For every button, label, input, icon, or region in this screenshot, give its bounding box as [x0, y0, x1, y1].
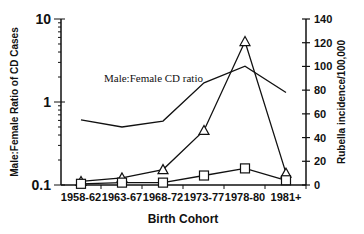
triangle-marker: [240, 37, 250, 46]
x-tick-label: 1978-80: [225, 191, 265, 203]
right-axis-title: Rubella incidence/100,000: [336, 40, 347, 164]
right-tick-label: 120: [314, 37, 332, 49]
ratio-annotation: Male:Female CD ratio: [104, 72, 203, 84]
square-marker: [200, 171, 209, 180]
right-tick-label: 80: [314, 84, 326, 96]
chart: 1010.1 020406080100120140 1958-621963-67…: [0, 0, 364, 234]
x-axis-title: Birth Cohort: [148, 212, 219, 226]
left-axis-title: Male:Female Ratio of CD Cases: [9, 27, 20, 177]
series-group: [76, 37, 291, 189]
x-tick-label: 1981+: [271, 191, 302, 203]
square-marker: [282, 176, 291, 185]
right-tick-label: 60: [314, 108, 326, 120]
x-tick-label: 1968-72: [143, 191, 183, 203]
right-tick-label: 40: [314, 132, 326, 144]
series-line: [81, 168, 286, 183]
x-tick-label: 1958-62: [61, 191, 101, 203]
square-marker: [241, 164, 250, 173]
right-tick-label: 0: [314, 179, 320, 191]
square-marker: [159, 178, 168, 187]
right-tick-label: 100: [314, 60, 332, 72]
series-line: [81, 42, 286, 182]
right-axis: 020406080100120140: [302, 13, 332, 191]
left-tick-label: 1: [43, 94, 51, 110]
right-tick-label: 20: [314, 155, 326, 167]
x-tick-label: 1973-77: [184, 191, 224, 203]
right-tick-label: 140: [314, 13, 332, 25]
left-axis: 1010.1: [32, 11, 65, 193]
left-tick-label: 10: [35, 11, 51, 27]
square-marker: [77, 179, 86, 188]
x-axis: 1958-621963-671968-721973-771978-801981+: [61, 185, 306, 203]
x-tick-label: 1963-67: [102, 191, 142, 203]
triangle-marker: [199, 125, 209, 134]
square-marker: [118, 178, 127, 187]
left-tick-label: 0.1: [32, 177, 52, 193]
